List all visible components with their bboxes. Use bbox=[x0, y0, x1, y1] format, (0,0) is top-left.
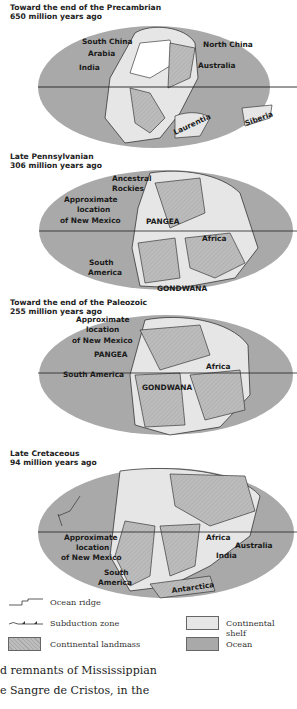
body-text-line1: d remnants of Mississippian bbox=[0, 664, 157, 677]
label-south-china: South China bbox=[82, 37, 133, 46]
legend-ocean: Ocean bbox=[226, 639, 252, 649]
label-ancestral: Ancestral bbox=[112, 174, 151, 183]
subduction-zone-icon bbox=[8, 619, 44, 629]
label-new-mexico: of New Mexico bbox=[72, 336, 133, 345]
map-cretaceous: Approximate location of New Mexico South… bbox=[0, 466, 297, 601]
label-pangea: PANGEA bbox=[146, 217, 180, 226]
ocean-ridge-icon bbox=[8, 598, 44, 608]
label-location: location bbox=[86, 325, 119, 334]
legend-ocean-ridge: Ocean ridge bbox=[50, 597, 101, 607]
map4-title-line1: Late Cretaceous bbox=[10, 449, 97, 458]
label-africa: Africa bbox=[202, 234, 226, 243]
map3-title: Toward the end of the Paleozoic 255 mill… bbox=[10, 298, 147, 316]
label-australia: Australia bbox=[198, 61, 236, 70]
label-pangea: PANGEA bbox=[94, 350, 128, 359]
label-arabia: Arabia bbox=[88, 49, 115, 58]
ocean-swatch bbox=[186, 637, 219, 651]
label-south: South bbox=[104, 568, 128, 577]
map2-title-line1: Late Pennsylvanian bbox=[10, 152, 102, 161]
label-rockies: Rockies bbox=[112, 184, 145, 193]
label-location: location bbox=[76, 543, 109, 552]
label-south: South bbox=[89, 258, 113, 267]
map-pennsylvanian: Ancestral Rockies Approximate location o… bbox=[0, 168, 297, 293]
map1-title-line1: Toward the end of the Precambrian bbox=[10, 3, 161, 12]
label-approximate: Approximate bbox=[64, 533, 118, 542]
label-approximate: Approximate bbox=[64, 195, 118, 204]
label-south-america: South America bbox=[63, 370, 124, 379]
label-africa: Africa bbox=[206, 362, 230, 371]
label-approximate: Approximate bbox=[76, 315, 130, 324]
map-precambrian: South China Arabia India North China Aus… bbox=[0, 18, 297, 153]
label-america: America bbox=[88, 268, 122, 277]
label-africa: Africa bbox=[206, 533, 230, 542]
label-gondwana: GONDWANA bbox=[157, 284, 207, 293]
legend-subduction-zone: Subduction zone bbox=[50, 618, 119, 628]
label-india: India bbox=[79, 63, 100, 72]
label-india: India bbox=[216, 551, 237, 560]
shelf-swatch bbox=[186, 616, 219, 630]
body-text-line2: e Sangre de Cristos, in the bbox=[0, 684, 149, 697]
label-america: America bbox=[98, 578, 132, 587]
legend-continental-shelf: Continental shelf bbox=[226, 618, 297, 638]
map-paleozoic: Approximate location of New Mexico PANGE… bbox=[0, 315, 297, 440]
label-new-mexico: of New Mexico bbox=[61, 553, 122, 562]
label-location: location bbox=[77, 205, 110, 214]
legend-continental-landmass: Continental landmass bbox=[50, 639, 140, 649]
map3-title-line1: Toward the end of the Paleozoic bbox=[10, 298, 147, 307]
landmass-swatch bbox=[8, 637, 41, 651]
label-australia: Australia bbox=[235, 541, 273, 550]
label-north-china: North China bbox=[203, 40, 253, 49]
label-gondwana: GONDWANA bbox=[142, 383, 192, 392]
label-new-mexico: of New Mexico bbox=[60, 216, 121, 225]
map4-title: Late Cretaceous 94 million years ago bbox=[10, 449, 97, 467]
